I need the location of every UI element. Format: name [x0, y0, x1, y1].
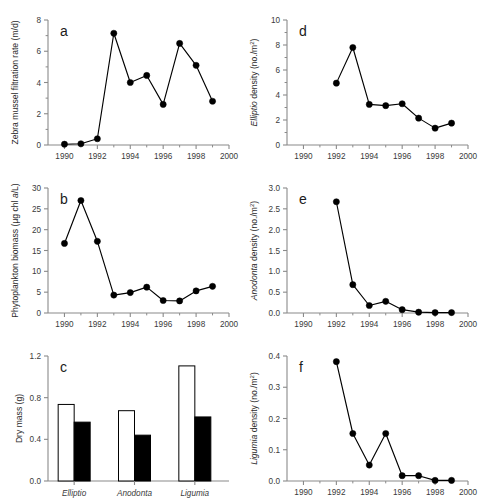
y-tick-label: 0.0: [269, 477, 281, 486]
x-tick-label: 2000: [220, 152, 239, 161]
x-tick-label: 1998: [426, 152, 445, 161]
x-tick-label: 1990: [55, 152, 74, 161]
y-tick-label: 0.8: [30, 394, 42, 403]
data-point: [333, 199, 339, 205]
y-axis-title: Phytoplankton biomass (µg chl a/L): [10, 183, 20, 318]
x-tick-label: 1998: [426, 320, 445, 329]
panel-letter-a: a: [60, 23, 68, 39]
y-tick-label: 0.4: [269, 352, 281, 361]
bar-filled-anodonta: [135, 435, 151, 481]
y-tick-label: 15: [32, 247, 42, 256]
y-tick-label: 0.1: [269, 446, 281, 455]
y-tick-label: 1.2: [30, 352, 42, 361]
data-point: [127, 289, 133, 295]
panel-a: 02468199019921994199619982000Zebra musse…: [0, 0, 239, 168]
y-tick-label: 1.0: [269, 267, 281, 276]
x-tick-label: 1996: [154, 320, 173, 329]
y-tick-label: 2: [275, 116, 280, 125]
data-point: [448, 120, 454, 126]
y-tick-label: 4: [36, 79, 41, 88]
y-tick-label: 2.5: [269, 205, 281, 214]
data-point: [432, 309, 438, 315]
data-point: [160, 101, 166, 107]
data-point: [111, 292, 117, 298]
data-point: [144, 72, 150, 78]
x-tick-label: 1990: [55, 320, 74, 329]
data-point: [366, 101, 372, 107]
x-tick-label: 2000: [459, 488, 478, 497]
panel-b-plot: 051015202530199019921994199619982000Phyt…: [0, 168, 239, 336]
bar-filled-elliptio: [74, 422, 90, 481]
panel-b: 051015202530199019921994199619982000Phyt…: [0, 168, 239, 336]
data-point: [350, 44, 356, 50]
data-point: [94, 136, 100, 142]
y-tick-label: 20: [32, 226, 42, 235]
panel-c-plot: 0.00.40.81.2ElliptioAnodontaLigumiaDry m…: [0, 336, 239, 504]
panel-letter-e: e: [299, 191, 307, 207]
y-tick-label: 1.5: [269, 247, 281, 256]
y-tick-label: 0.4: [30, 435, 42, 444]
x-tick-label: 1992: [327, 488, 346, 497]
x-tick-label: 1992: [88, 152, 107, 161]
bar-open-anodonta: [119, 411, 135, 481]
y-axis-title: Elliptio density (no./m2): [249, 38, 259, 126]
data-series-line: [64, 201, 212, 301]
data-point: [333, 80, 339, 86]
data-series-line: [64, 33, 212, 144]
data-point: [416, 473, 422, 479]
data-point: [127, 79, 133, 85]
y-axis-title: Zebra mussel filtration rate (m/d): [10, 20, 20, 144]
x-tick-label: 1994: [360, 320, 379, 329]
data-point: [193, 62, 199, 68]
y-axis-title-text: Ligumia density (no./m2): [249, 372, 259, 465]
x-tick-label: 1996: [393, 488, 412, 497]
y-tick-label: 10: [271, 16, 281, 25]
x-tick-label: 2000: [459, 320, 478, 329]
data-point: [366, 302, 372, 308]
y-axis-title-text: Elliptio density (no./m2): [249, 38, 259, 126]
panel-letter-d: d: [299, 23, 307, 39]
panel-f: 0.00.10.20.30.4199019921994199619982000L…: [239, 336, 478, 504]
data-point: [399, 101, 405, 107]
panel-f-plot: 0.00.10.20.30.4199019921994199619982000L…: [239, 336, 478, 504]
y-tick-label: 0: [36, 141, 41, 150]
x-tick-label: 1998: [426, 488, 445, 497]
data-point: [399, 473, 405, 479]
bar-filled-ligumia: [195, 417, 211, 481]
data-point: [111, 30, 117, 36]
data-series-line: [336, 48, 451, 129]
x-tick-label: 1992: [327, 152, 346, 161]
x-tick-label: 1994: [121, 152, 140, 161]
panel-letter-c: c: [60, 359, 67, 375]
y-tick-label: 0.5: [269, 288, 281, 297]
x-tick-label: 1998: [187, 152, 206, 161]
y-tick-label: 6: [275, 66, 280, 75]
panel-e: 0.00.51.01.52.02.53.01990199219941996199…: [239, 168, 478, 336]
y-axis-title-text: Phytoplankton biomass (µg chl a/L): [10, 183, 20, 318]
x-tick-label: 2000: [220, 320, 239, 329]
panel-d-plot: 0246810199019921994199619982000Elliptio …: [239, 0, 478, 168]
data-point: [383, 430, 389, 436]
y-tick-label: 5: [36, 288, 41, 297]
data-point: [209, 283, 215, 289]
y-tick-label: 3.0: [269, 184, 281, 193]
data-point: [350, 282, 356, 288]
x-tick-label: 2000: [459, 152, 478, 161]
y-axis-title-text: Zebra mussel filtration rate (m/d): [10, 20, 20, 144]
y-tick-label: 2: [36, 110, 41, 119]
data-point: [416, 115, 422, 121]
x-tick-label: 1994: [360, 152, 379, 161]
x-tick-label: 1994: [360, 488, 379, 497]
multi-panel-figure: 02468199019921994199619982000Zebra musse…: [0, 0, 478, 504]
data-point: [448, 477, 454, 483]
data-point: [209, 98, 215, 104]
x-tick-label: 1994: [121, 320, 140, 329]
y-tick-label: 0.2: [269, 415, 281, 424]
data-point: [416, 309, 422, 315]
data-point: [78, 141, 84, 147]
y-tick-label: 0: [275, 141, 280, 150]
x-tick-label: 1990: [294, 488, 313, 497]
data-point: [177, 298, 183, 304]
y-axis-title: Anodonta density (no./m2): [249, 201, 259, 302]
data-point: [160, 297, 166, 303]
